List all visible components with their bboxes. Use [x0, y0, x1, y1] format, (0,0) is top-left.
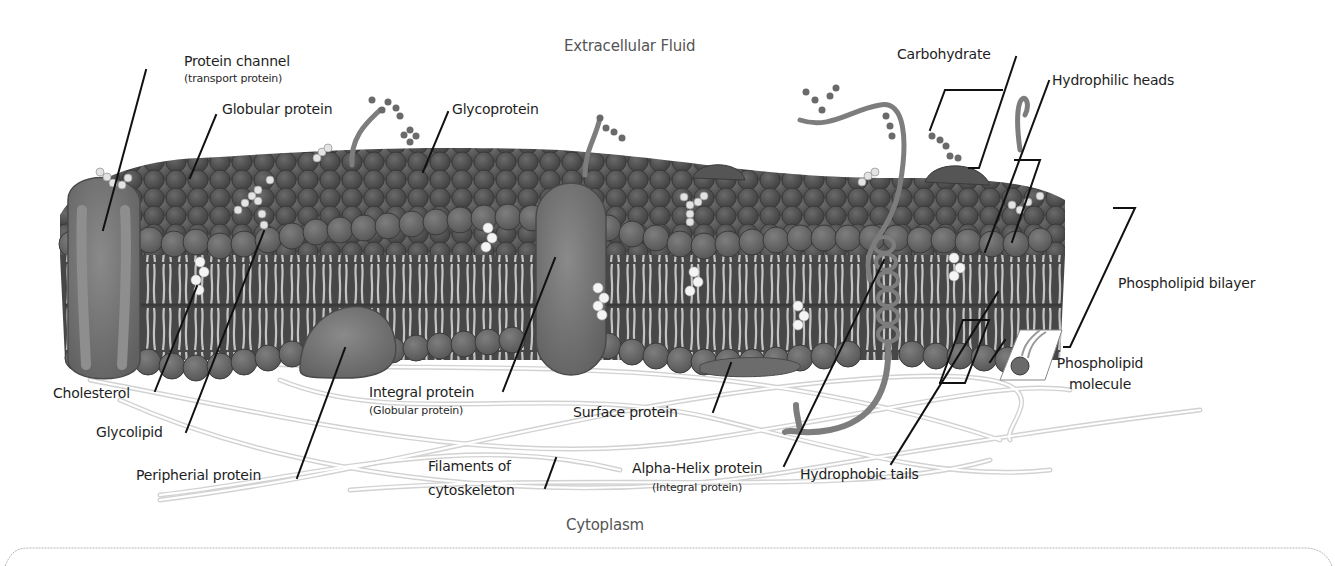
label-alpha-helix: Alpha-Helix protein — [632, 460, 762, 476]
region-label-extracellular: Extracellular Fluid — [564, 38, 695, 54]
label-carbohydrate: Carbohydrate — [897, 46, 991, 62]
label-hydrophobic-tails: Hydrophobic tails — [800, 466, 919, 482]
label-globular-protein: Globular protein — [222, 101, 332, 117]
protein-channel — [68, 178, 140, 379]
bottom-frame — [5, 548, 1332, 566]
label-alpha-helix-sub: (Integral protein) — [652, 481, 742, 494]
label-phospholipid-molecule-line1: Phospholipid — [1054, 355, 1146, 371]
label-phospholipid-bilayer: Phospholipid bilayer — [1118, 275, 1255, 291]
label-filaments-line2: cytoskeleton — [428, 482, 515, 498]
label-phospholipid-molecule-line2: molecule — [1054, 376, 1146, 392]
label-glycolipid: Glycolipid — [96, 424, 163, 440]
label-protein-channel-sub: (transport protein) — [184, 72, 282, 85]
label-glycoprotein: Glycoprotein — [452, 101, 539, 117]
label-peripheral-protein: Peripherial protein — [136, 467, 261, 483]
cell-membrane-diagram: Extracellular Fluid Cytoplasm Protein ch… — [0, 0, 1335, 566]
label-phospholipid-molecule: Phospholipid molecule — [1054, 355, 1146, 392]
label-cholesterol: Cholesterol — [53, 385, 130, 401]
label-hydrophilic-heads: Hydrophilic heads — [1052, 72, 1174, 88]
surface-protein — [700, 358, 800, 377]
label-protein-channel: Protein channel — [184, 53, 290, 69]
label-surface-protein: Surface protein — [573, 404, 678, 420]
label-integral-protein: Integral protein — [369, 384, 474, 400]
label-integral-protein-sub: (Globular protein) — [369, 404, 463, 417]
label-filaments-line1: Filaments of — [428, 458, 511, 474]
region-label-cytoplasm: Cytoplasm — [566, 517, 644, 533]
